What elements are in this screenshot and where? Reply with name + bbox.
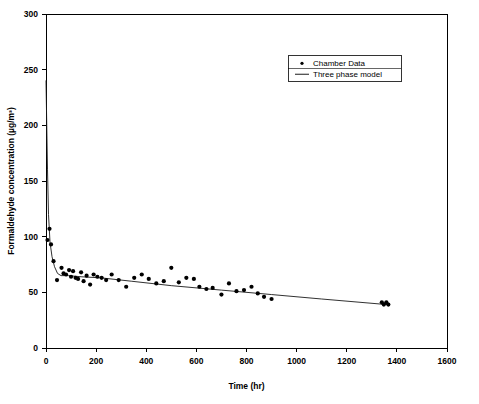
- data-point: [242, 288, 246, 292]
- data-point: [234, 289, 238, 293]
- data-point: [132, 276, 136, 280]
- x-tick-label: 600: [189, 356, 203, 366]
- data-point: [95, 275, 99, 279]
- data-point: [262, 295, 266, 299]
- y-tick-label: 100: [24, 232, 38, 242]
- data-point: [92, 272, 96, 276]
- x-tick-label: 0: [44, 356, 49, 366]
- chamber-data-points: [45, 227, 390, 307]
- x-axis-title: Time (hr): [228, 381, 264, 391]
- x-tick-label: 1200: [337, 356, 356, 366]
- data-point: [47, 227, 51, 231]
- data-point: [211, 286, 215, 290]
- y-axis-title: Formaldehyde concentration (µg/m³): [6, 107, 16, 255]
- data-point: [49, 242, 53, 246]
- data-point: [197, 285, 201, 289]
- legend-label-chamber-data: Chamber Data: [313, 59, 366, 68]
- data-point: [124, 285, 128, 289]
- data-point: [204, 287, 208, 291]
- legend-marker-chamber-data: [300, 62, 303, 65]
- y-axis-ticks: [42, 14, 46, 348]
- data-point: [55, 278, 59, 282]
- data-point: [64, 272, 68, 276]
- y-tick-label: 150: [24, 176, 38, 186]
- data-point: [67, 268, 71, 272]
- data-point: [269, 297, 273, 301]
- data-point: [386, 302, 390, 306]
- data-point: [177, 280, 181, 284]
- data-point: [256, 291, 260, 295]
- data-point: [110, 272, 114, 276]
- x-tick-label: 400: [139, 356, 153, 366]
- three-phase-model-line: [46, 81, 387, 305]
- data-point: [81, 279, 85, 283]
- data-point: [147, 277, 151, 281]
- data-point: [249, 285, 253, 289]
- data-point: [45, 238, 49, 242]
- data-point: [79, 270, 83, 274]
- x-tick-label: 1000: [287, 356, 306, 366]
- chart-figure: 02004006008001000120014001600 0501001502…: [0, 0, 479, 404]
- data-point: [100, 276, 104, 280]
- data-point: [227, 281, 231, 285]
- y-tick-label: 250: [24, 65, 38, 75]
- chart-legend: Chamber Data Three phase model: [288, 55, 401, 81]
- data-point: [76, 277, 80, 281]
- data-point: [88, 282, 92, 286]
- data-point: [85, 274, 89, 278]
- x-tick-label: 800: [239, 356, 253, 366]
- data-point: [69, 275, 73, 279]
- x-axis-tick-labels: 02004006008001000120014001600: [44, 356, 457, 366]
- data-point: [184, 276, 188, 280]
- x-tick-label: 1600: [438, 356, 457, 366]
- x-axis-ticks: [46, 348, 447, 352]
- data-point: [140, 272, 144, 276]
- legend-label-three-phase-model: Three phase model: [313, 70, 382, 79]
- data-point: [117, 278, 121, 282]
- data-point: [51, 259, 55, 263]
- y-axis-tick-labels: 050100150200250300: [24, 9, 38, 353]
- data-point: [71, 269, 75, 273]
- y-tick-label: 0: [33, 343, 38, 353]
- y-tick-label: 300: [24, 9, 38, 19]
- y-tick-label: 50: [29, 287, 39, 297]
- formaldehyde-decay-chart: 02004006008001000120014001600 0501001502…: [0, 0, 479, 404]
- y-tick-label: 200: [24, 120, 38, 130]
- data-point: [162, 279, 166, 283]
- x-tick-label: 200: [89, 356, 103, 366]
- data-point: [59, 266, 63, 270]
- x-tick-label: 1400: [387, 356, 406, 366]
- data-point: [169, 266, 173, 270]
- data-point: [104, 278, 108, 282]
- data-point: [192, 277, 196, 281]
- data-point: [219, 292, 223, 296]
- data-point: [154, 281, 158, 285]
